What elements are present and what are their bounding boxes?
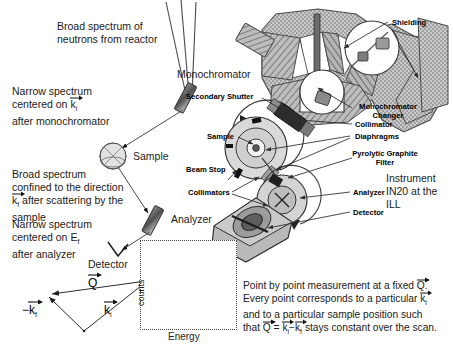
instrument-label-shielding: Shielding [392, 18, 426, 27]
annotation-after-analyzer: Narrow spectrum centered on Ef after ana… [12, 218, 92, 261]
instrument-label-collimator: Collimator [355, 120, 393, 129]
schematic-detector [108, 242, 128, 256]
ki-vector-glyph: ki [104, 303, 112, 318]
instrument-label-pyrolytic-graphite-filter: Pyrolytic Graphite Filter [352, 150, 418, 167]
annotation-after-mono-l3: after monochromator [12, 115, 109, 128]
vector-label-Q: Q [88, 276, 97, 290]
annotation-after-mono-l1: Narrow spectrum [12, 85, 109, 98]
figure-caption: Point by point measurement at a fixed Q.… [243, 280, 451, 338]
kf-vector-caption-2: kf [295, 322, 302, 339]
mono-changer-l2: Changer [352, 112, 424, 121]
vector-triangle [49, 280, 148, 333]
figure-root: counts Energy Broad spectrum of neutrons… [0, 0, 453, 355]
minus-kf-vector-glyph: −kf [22, 303, 37, 318]
Q-vector-caption-1: Q [417, 280, 425, 293]
instrument-name-l2: IN20 at the ILL [386, 185, 453, 211]
ki-vector-caption: ki [420, 293, 427, 310]
instrument-name-l1: Instrument [386, 172, 453, 185]
vector-label-kf: −kf [22, 303, 37, 318]
instrument-name: Instrument IN20 at the ILL [386, 172, 453, 211]
instrument-label-beam-stop: Beam Stop [186, 165, 226, 174]
schematic-label-monochromator: Monochromator [177, 68, 251, 81]
annotation-after-analyzer-l2: centered on Ef [12, 231, 92, 248]
annotation-after-sample-l1: Broad spectrum [12, 168, 124, 181]
instrument-label-analyzer: Analyzer [353, 188, 385, 197]
caption-line-1: Point by point measurement at a fixed Q. [243, 280, 451, 293]
schematic-analyzer-crystal [142, 205, 164, 235]
plot-x-axis-label: Energy [168, 331, 200, 342]
instrument-label-collimators: Collimators [188, 188, 230, 197]
annotation-after-analyzer-l3: after analyzer [12, 248, 92, 261]
plot-y-axis-label: counts [136, 279, 146, 306]
counts-vs-energy-plot [140, 240, 237, 330]
annotation-beam-source-l1: Broad spectrum of [57, 20, 157, 33]
ki-vector-caption-2: ki [282, 322, 289, 339]
annotation-after-sample: Broad spectrum confined to the direction… [12, 168, 124, 224]
vector-label-ki: ki [104, 303, 112, 318]
caption-line-4: that Q = ki−kf stays constant over the s… [243, 322, 451, 339]
schematic-sample-sphere [100, 143, 126, 169]
instrument-label-sample: Sample [207, 132, 234, 141]
caption-line-2: Every point corresponds to a particular … [243, 293, 451, 310]
schematic-label-detector: Detector [88, 258, 128, 271]
kf-vector-inline: kf [12, 194, 19, 211]
annotation-after-mono-l2: centered on ki [12, 98, 109, 115]
schematic-label-sample: Sample [133, 150, 169, 163]
annotation-after-monochromator: Narrow spectrum centered on ki after mon… [12, 85, 109, 128]
pg-filter-l2: Filter [352, 159, 418, 168]
caption-line-3: and to a particular sample position such [243, 309, 451, 322]
reactor-beam-lines [166, 0, 196, 95]
annotation-after-sample-l2: confined to the direction [12, 181, 124, 194]
shielding-wall-right [418, 18, 448, 112]
annotation-beam-source: Broad spectrum of neutrons from reactor [57, 20, 157, 46]
schematic-label-analyzer: Analyzer [171, 213, 212, 226]
instrument-label-secondary-shutter: Secondary Shutter [186, 92, 254, 101]
annotation-after-analyzer-l1: Narrow spectrum [12, 218, 92, 231]
instrument-label-diaphragms: Diaphragms [355, 132, 399, 141]
annotation-after-sample-l3: kf after scattering by the [12, 194, 124, 211]
ki-vector-inline: ki [70, 98, 77, 115]
beam-mono-to-sample [122, 110, 183, 148]
annotation-beam-source-l2: neutrons from reactor [57, 33, 157, 46]
Q-vector-glyph: Q [88, 276, 97, 290]
Q-vector-caption-2: Q [263, 322, 271, 335]
instrument-label-detector: Detector [353, 208, 384, 217]
monochromator-changer-inset [345, 21, 399, 75]
instrument-label-monochromator-changer: Monochromator Changer [352, 103, 424, 120]
